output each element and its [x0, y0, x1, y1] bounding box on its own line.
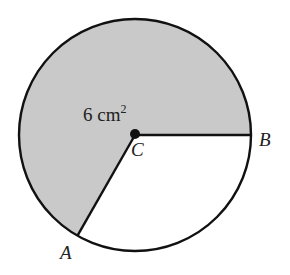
point-a-label: A — [58, 242, 72, 263]
center-label: C — [131, 139, 144, 160]
center-point — [130, 129, 140, 139]
area-label: 6 cm2 — [83, 102, 126, 125]
circle-diagram: 6 cm2 C B A — [0, 0, 290, 275]
point-b-label: B — [259, 129, 271, 150]
